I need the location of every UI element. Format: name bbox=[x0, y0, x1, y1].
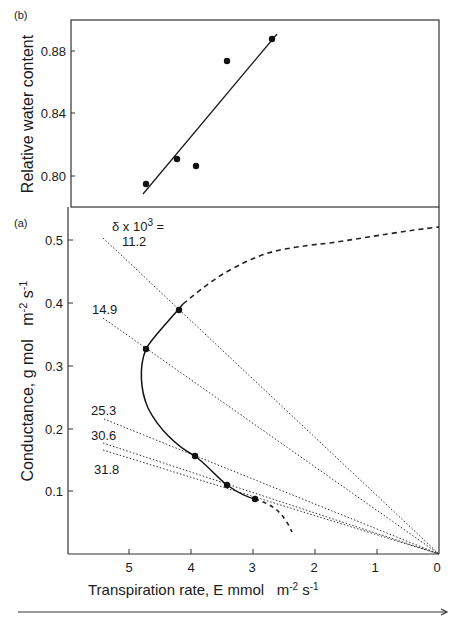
data-point bbox=[174, 156, 180, 162]
delta-label-30-6: 30.6 bbox=[91, 428, 116, 443]
ytick-label: 0.84 bbox=[41, 106, 66, 121]
xtick-label: 0 bbox=[433, 560, 440, 575]
data-point bbox=[269, 36, 275, 42]
data-point bbox=[224, 58, 230, 64]
xtick-label: 4 bbox=[187, 560, 194, 575]
delta-line-31-8 bbox=[103, 450, 439, 554]
ytick-label: 0.1 bbox=[45, 484, 63, 499]
panel-a-points bbox=[143, 307, 258, 502]
panel-a-ylabel: Conductance, g mol m-2 s-1 bbox=[17, 281, 36, 482]
ytick-label: 0.4 bbox=[45, 296, 63, 311]
panel-b-label: (b) bbox=[14, 9, 27, 21]
regression-line bbox=[143, 34, 277, 194]
conductance-curve-dashed-upper bbox=[183, 227, 439, 304]
xtick-label: 1 bbox=[371, 560, 378, 575]
panel-b-yticks: 0.88 0.84 0.80 bbox=[41, 44, 75, 184]
delta-label-31-8: 31.8 bbox=[94, 462, 119, 477]
data-point bbox=[224, 482, 230, 488]
ytick-label: 0.80 bbox=[41, 169, 66, 184]
delta-line-30-6 bbox=[103, 443, 439, 554]
data-point bbox=[143, 346, 149, 352]
right-arrow-icon bbox=[18, 609, 447, 615]
data-point bbox=[252, 496, 258, 502]
panel-a-xticks: 5 4 3 2 1 0 bbox=[125, 549, 440, 575]
conductance-curve-solid bbox=[141, 304, 255, 499]
ytick-label: 0.2 bbox=[45, 422, 63, 437]
delta-header: δ x 103 = bbox=[112, 217, 164, 235]
panel-b-frame bbox=[71, 20, 439, 207]
xtick-label: 5 bbox=[125, 560, 132, 575]
data-point bbox=[143, 181, 149, 187]
data-point bbox=[192, 453, 198, 459]
delta-label-25-3: 25.3 bbox=[91, 403, 116, 418]
data-point bbox=[176, 307, 182, 313]
panel-a-xlabel: Transpiration rate, E mmol m-2 s-1 bbox=[88, 581, 319, 599]
data-point bbox=[193, 163, 199, 169]
xtick-label: 3 bbox=[248, 560, 255, 575]
panel-b-points bbox=[143, 36, 275, 187]
ylabel-text: Conductance, g mol m-2 s-1 bbox=[17, 281, 36, 482]
delta-label-14-9: 14.9 bbox=[92, 302, 117, 317]
figure: (b) 0.88 0.84 0.80 Relative water conten… bbox=[0, 0, 453, 618]
panel-a-yticks: 0.5 0.4 0.3 0.2 0.1 bbox=[45, 233, 73, 499]
xlabel-text: Transpiration rate, E mmol m-2 s-1 bbox=[88, 581, 319, 599]
panel-a: (a) 0.5 0.4 0.3 0.2 0.1 5 4 3 2 1 bbox=[14, 207, 441, 598]
delta-line-14-9 bbox=[103, 318, 439, 554]
ytick-label: 0.5 bbox=[45, 233, 63, 248]
delta-line-25-3 bbox=[104, 419, 439, 554]
ytick-label: 0.3 bbox=[45, 359, 63, 374]
delta-label-11-2: 11.2 bbox=[122, 234, 146, 249]
panel-b-ylabel: Relative water content bbox=[19, 34, 36, 193]
panel-a-label: (a) bbox=[14, 217, 27, 229]
ytick-label: 0.88 bbox=[41, 44, 66, 59]
xtick-label: 2 bbox=[310, 560, 317, 575]
panel-b: (b) 0.88 0.84 0.80 Relative water conten… bbox=[14, 9, 439, 207]
